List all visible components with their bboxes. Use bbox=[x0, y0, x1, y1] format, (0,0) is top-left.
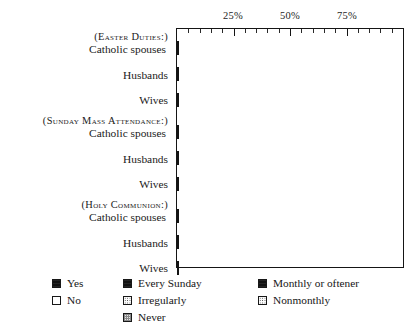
axis-major-tick bbox=[290, 29, 291, 36]
row-label: Wives bbox=[139, 262, 168, 275]
chart-page: 25% 50% 75% (Easter Duties:) Catholic sp… bbox=[0, 0, 408, 334]
axis-minor-tick bbox=[392, 29, 393, 33]
stacked-bar bbox=[177, 261, 179, 275]
legend-swatch-never bbox=[123, 313, 132, 322]
legend-item: Nonmonthly bbox=[258, 293, 359, 308]
legend-item: Every Sunday bbox=[123, 276, 202, 291]
legend-label: Monthly or oftener bbox=[273, 278, 359, 289]
row-label-communion-wives: Wives bbox=[139, 262, 168, 275]
axis-minor-tick bbox=[256, 29, 257, 33]
legend-item: Never bbox=[123, 310, 202, 325]
row-label-easter-wives: Wives bbox=[139, 94, 168, 107]
axis-major-tick bbox=[234, 29, 235, 36]
group-label-sunday-mass: (Sunday Mass Attendance:) Catholic spous… bbox=[43, 115, 168, 140]
axis-minor-tick bbox=[200, 29, 201, 33]
axis-minor-tick bbox=[324, 29, 325, 33]
legend-label: Irregularly bbox=[138, 295, 186, 306]
legend-label: Every Sunday bbox=[138, 278, 202, 289]
bar-row bbox=[177, 261, 403, 275]
legend-label: No bbox=[67, 295, 81, 306]
legend-swatch-every-sunday bbox=[123, 279, 132, 288]
group-heading: (Sunday Mass Attendance:) bbox=[43, 115, 168, 127]
stacked-bar bbox=[177, 177, 179, 191]
axis-minor-tick bbox=[245, 29, 246, 33]
axis-tick-label-75: 75% bbox=[337, 10, 357, 21]
bar-row bbox=[177, 151, 403, 165]
row-label-mass-husbands: Husbands bbox=[123, 153, 168, 166]
legend-column-3: Monthly or oftener Nonmonthly bbox=[258, 276, 359, 310]
stacked-bar bbox=[177, 235, 179, 249]
row-label: Wives bbox=[139, 94, 168, 107]
legend-column-2: Every Sunday Irregularly Never bbox=[123, 276, 202, 327]
bar-row bbox=[177, 41, 403, 55]
row-label: Catholic spouses bbox=[43, 127, 168, 140]
row-label: Husbands bbox=[123, 153, 168, 166]
legend-swatch-nonmonthly bbox=[258, 296, 267, 305]
row-label: Husbands bbox=[123, 237, 168, 250]
row-label-mass-wives: Wives bbox=[139, 178, 168, 191]
bar-row bbox=[177, 177, 403, 191]
group-label-holy-communion: (Holy Communion:) Catholic spouses bbox=[81, 199, 168, 224]
bar-rows bbox=[177, 36, 403, 267]
plot-area bbox=[176, 28, 404, 268]
legend-column-1: Yes No bbox=[52, 276, 83, 310]
bar-row bbox=[177, 209, 403, 223]
bar-row bbox=[177, 125, 403, 139]
axis-minor-tick bbox=[301, 29, 302, 33]
legend-item: No bbox=[52, 293, 83, 308]
bar-row bbox=[177, 235, 403, 249]
axis-minor-tick bbox=[188, 29, 189, 33]
axis-tick-label-25: 25% bbox=[223, 10, 243, 21]
axis-minor-tick bbox=[369, 29, 370, 33]
row-label: Wives bbox=[139, 178, 168, 191]
bar-row bbox=[177, 67, 403, 81]
group-label-easter-duties: (Easter Duties:) Catholic spouses bbox=[89, 31, 168, 56]
row-label: Husbands bbox=[123, 69, 168, 82]
legend-item: Monthly or oftener bbox=[258, 276, 359, 291]
axis-minor-tick bbox=[380, 29, 381, 33]
axis-minor-tick bbox=[279, 29, 280, 33]
stacked-bar bbox=[177, 93, 179, 107]
row-label: Catholic spouses bbox=[89, 43, 168, 56]
stacked-bar bbox=[177, 41, 179, 55]
legend-swatch-no bbox=[52, 296, 61, 305]
axis-major-tick bbox=[347, 29, 348, 36]
stacked-bar bbox=[177, 125, 179, 139]
stacked-bar bbox=[177, 151, 179, 165]
legend-label: Never bbox=[138, 312, 166, 323]
stacked-bar bbox=[177, 67, 179, 81]
legend-label: Nonmonthly bbox=[273, 295, 330, 306]
group-heading: (Easter Duties:) bbox=[89, 31, 168, 43]
stacked-bar bbox=[177, 209, 179, 223]
legend-swatch-irregularly bbox=[123, 296, 132, 305]
axis-minor-tick bbox=[358, 29, 359, 33]
axis-minor-tick bbox=[267, 29, 268, 33]
row-label-easter-husbands: Husbands bbox=[123, 69, 168, 82]
legend-swatch-yes bbox=[52, 279, 61, 288]
legend-item: Yes bbox=[52, 276, 83, 291]
axis-tick-marks bbox=[177, 29, 403, 36]
x-axis-tick-labels: 25% 50% 75% bbox=[176, 10, 404, 26]
row-label-communion-husbands: Husbands bbox=[123, 237, 168, 250]
row-label-column: (Easter Duties:) Catholic spouses Husban… bbox=[0, 28, 176, 268]
bar-row bbox=[177, 93, 403, 107]
legend-swatch-monthly-or-oftener bbox=[258, 279, 267, 288]
axis-tick-label-50: 50% bbox=[280, 10, 300, 21]
legend-label: Yes bbox=[67, 278, 83, 289]
group-heading: (Holy Communion:) bbox=[81, 199, 168, 211]
axis-minor-tick bbox=[211, 29, 212, 33]
row-label: Catholic spouses bbox=[81, 211, 168, 224]
axis-minor-tick bbox=[222, 29, 223, 33]
legend-item: Irregularly bbox=[123, 293, 202, 308]
axis-minor-tick bbox=[313, 29, 314, 33]
axis-minor-tick bbox=[335, 29, 336, 33]
chart-legend: Yes No Every Sunday Irregularly Never bbox=[0, 276, 408, 334]
